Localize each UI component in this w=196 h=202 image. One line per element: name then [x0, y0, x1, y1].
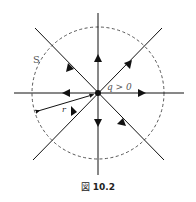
charge-label: q > 0 — [107, 82, 132, 92]
caption-number: 10.2 — [93, 182, 115, 192]
field-arrows — [62, 54, 146, 127]
caption-prefix: 図 — [81, 182, 90, 192]
surface-label: S — [33, 54, 40, 65]
figure-caption: 図 10.2 — [0, 180, 196, 193]
point-charge — [95, 90, 101, 96]
electric-field-diagram: S q > 0 r — [0, 0, 196, 202]
radius-label: r — [62, 105, 67, 114]
